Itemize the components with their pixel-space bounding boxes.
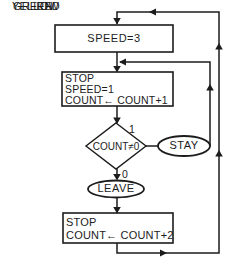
green-action-text: SPEED=3 bbox=[55, 25, 173, 52]
arrowhead-top-leftward bbox=[149, 8, 156, 15]
red-actions: STOP COUNT← COUNT+2 bbox=[66, 216, 174, 242]
yellow-action-line: SPEED=1 bbox=[65, 84, 168, 95]
decision-true-label: 1 bbox=[129, 123, 135, 136]
decision-false-label: 0 bbox=[122, 168, 128, 181]
red-action-line: STOP bbox=[66, 216, 174, 229]
arrowhead-stay-loop-up bbox=[206, 84, 214, 91]
red-state-label: RED bbox=[0, 0, 60, 13]
yellow-action-line: COUNT← COUNT+1 bbox=[65, 95, 168, 106]
stay-terminal-text: STAY bbox=[158, 139, 210, 152]
arrowhead-outer-up-lower bbox=[215, 150, 223, 157]
arrowhead-bottom-rightward bbox=[160, 249, 167, 256]
arrowhead-into-leave bbox=[113, 174, 121, 181]
flowchart-figure: GREEN YELLOW RED SPEED=3 STOP SPEED=1 CO… bbox=[0, 0, 227, 265]
yellow-actions: STOP SPEED=1 COUNT← COUNT+1 bbox=[65, 73, 168, 105]
arrowhead-outer-up-upper bbox=[215, 43, 223, 50]
arrowhead-merge-into-yellow-entry bbox=[119, 58, 126, 65]
arrowhead-into-decision bbox=[113, 118, 121, 125]
red-action-line: COUNT← COUNT+2 bbox=[66, 229, 174, 242]
decision-condition-text: COUNT≠0 bbox=[86, 140, 146, 153]
leave-terminal-text: LEAVE bbox=[88, 182, 144, 195]
arrowhead-into-green bbox=[113, 18, 121, 25]
